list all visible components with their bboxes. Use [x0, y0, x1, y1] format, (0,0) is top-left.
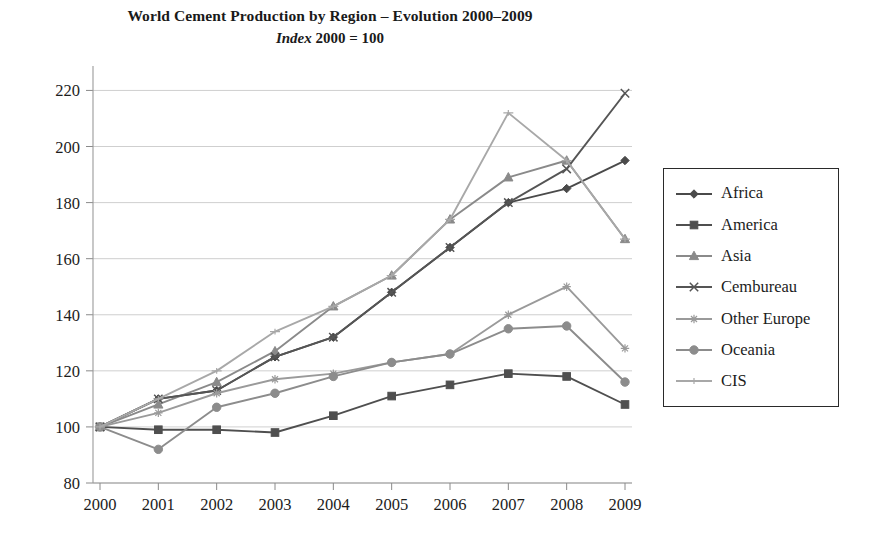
x-tick-label: 2003	[259, 495, 292, 514]
series-line	[100, 161, 625, 427]
y-tick-label: 120	[55, 362, 80, 381]
data-point-marker	[562, 283, 570, 291]
series-line	[100, 113, 625, 427]
legend-label-africa: Africa	[721, 185, 763, 202]
data-point-marker	[621, 401, 629, 409]
data-point-marker	[212, 389, 220, 397]
data-point-marker	[504, 325, 512, 333]
data-point-marker	[621, 378, 629, 386]
y-tick-label: 100	[55, 418, 80, 437]
x-tick-label: 2004	[317, 495, 350, 514]
line-chart-svg: 80100120140160180200220 2000200120022003…	[0, 0, 660, 548]
legend-key-cembureau	[674, 278, 714, 296]
data-point-marker	[212, 403, 220, 411]
legend-marker	[690, 189, 698, 197]
plot-area: 80100120140160180200220 2000200120022003…	[0, 0, 660, 548]
legend-key-africa	[674, 185, 714, 203]
data-point-marker	[212, 377, 221, 385]
series-oceania	[96, 322, 629, 454]
series-line	[100, 161, 625, 427]
data-point-marker	[387, 358, 395, 366]
legend-label-america: America	[721, 217, 778, 234]
y-tick-label: 180	[55, 194, 80, 213]
y-tick-labels: 80100120140160180200220	[55, 81, 80, 493]
data-point-marker	[621, 344, 629, 352]
y-tick-label: 220	[55, 81, 80, 100]
series-america	[96, 370, 629, 436]
legend-marker	[690, 315, 698, 323]
legend-label-cis: CIS	[721, 373, 747, 390]
series-other-europe	[96, 283, 629, 432]
data-point-marker	[271, 389, 279, 397]
data-point-marker	[271, 429, 279, 437]
legend-label-cembureau: Cembureau	[721, 279, 797, 296]
legend-key-america	[674, 216, 714, 234]
legend-item-africa[interactable]: Africa	[674, 179, 832, 209]
x-tick-label: 2009	[609, 495, 642, 514]
data-point-marker	[271, 375, 279, 383]
data-series	[95, 89, 630, 454]
data-point-marker	[562, 322, 570, 330]
x-tick-label: 2006	[434, 495, 467, 514]
data-point-marker	[330, 412, 338, 420]
legend-key-cis	[674, 372, 714, 390]
data-point-marker	[505, 370, 513, 378]
x-tick-label: 2007	[492, 495, 525, 514]
data-point-marker	[446, 381, 454, 389]
x-tick-label: 2001	[142, 495, 175, 514]
data-point-marker	[213, 426, 221, 434]
x-tick-label: 2000	[84, 495, 117, 514]
x-tick-labels: 2000200120022003200420052006200720082009	[84, 495, 642, 514]
data-point-marker	[388, 392, 396, 400]
legend-item-america[interactable]: America	[674, 210, 832, 240]
legend-marker	[690, 221, 698, 229]
series-line	[100, 326, 625, 449]
data-point-marker	[154, 445, 162, 453]
series-asia	[95, 156, 629, 431]
data-point-marker	[621, 156, 629, 164]
data-point-marker	[563, 373, 571, 381]
legend-label-other-europe: Other Europe	[721, 311, 810, 328]
legend-item-asia[interactable]: Asia	[674, 241, 832, 271]
legend-marker	[689, 378, 699, 384]
legend-item-cis[interactable]: CIS	[674, 366, 832, 396]
data-point-marker	[446, 350, 454, 358]
legend-key-oceania	[674, 341, 714, 359]
series-cis	[95, 110, 630, 430]
x-tick-label: 2008	[550, 495, 583, 514]
series-line	[100, 374, 625, 433]
y-tick-label: 160	[55, 250, 80, 269]
legend-label-asia: Asia	[721, 248, 751, 265]
series-cembureau	[96, 89, 629, 431]
y-tick-label: 80	[64, 474, 81, 493]
legend-item-cembureau[interactable]: Cembureau	[674, 272, 832, 302]
legend-label-oceania: Oceania	[721, 342, 775, 359]
legend-key-asia	[674, 247, 714, 265]
data-point-marker	[562, 184, 570, 192]
legend-marker	[690, 346, 698, 354]
data-point-marker	[155, 426, 163, 434]
legend-key-other-europe	[674, 310, 714, 328]
chart-figure: World Cement Production by Region – Evol…	[0, 0, 877, 548]
chart-legend: Africa America Asia Cembureau Other Euro…	[663, 168, 839, 407]
gridlines	[93, 90, 632, 483]
legend-item-other-europe[interactable]: Other Europe	[674, 304, 832, 334]
data-point-marker	[329, 372, 337, 380]
data-point-marker	[504, 311, 512, 319]
x-tick-label: 2005	[375, 495, 408, 514]
y-tick-label: 140	[55, 306, 80, 325]
axes	[86, 66, 632, 490]
y-tick-label: 200	[55, 138, 80, 157]
legend-item-oceania[interactable]: Oceania	[674, 335, 832, 365]
x-tick-label: 2002	[200, 495, 233, 514]
data-point-marker	[154, 409, 162, 417]
